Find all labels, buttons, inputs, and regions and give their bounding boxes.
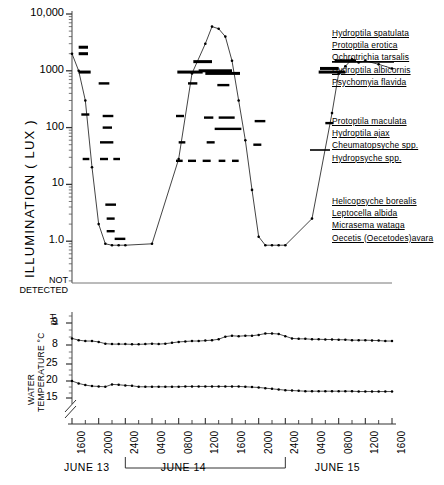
water-temperature-point xyxy=(197,385,200,388)
x-axis-label-0400: 0400 xyxy=(316,431,327,454)
day-label-1: JUNE 13 xyxy=(64,461,110,473)
x-axis-label-2000: 2000 xyxy=(103,431,114,454)
x-axis-label-0400: 0400 xyxy=(156,431,167,454)
ph-point xyxy=(311,338,314,341)
ph-point xyxy=(324,338,327,341)
x-axis-label-1600: 1600 xyxy=(396,431,407,454)
water-temperature-point xyxy=(344,390,347,393)
legend-item-0-1: Protoptila erotica xyxy=(332,40,398,50)
illumination-point xyxy=(311,217,314,220)
ph-point xyxy=(344,338,347,341)
water-temperature-point xyxy=(151,386,154,389)
water-temperature-point xyxy=(377,390,380,393)
legend-item-1-2: Cheumatopsyche spp. xyxy=(332,140,418,150)
ph-point xyxy=(224,335,227,338)
ph-point xyxy=(231,335,234,338)
ph-point xyxy=(264,332,267,335)
activity-bar-protoptila-maculata xyxy=(176,115,184,117)
illumination-point xyxy=(231,59,234,62)
legend-item-2-0: Helicopsyche borealis xyxy=(332,196,417,206)
water-temperature-point xyxy=(224,385,227,388)
water-temperature-point xyxy=(391,390,394,393)
x-axis-label-0800: 0800 xyxy=(343,431,354,454)
activity-bar-ochrotrichia-tarsalis xyxy=(188,82,197,84)
activity-bar-helicopsyche-borealis xyxy=(105,203,116,205)
illumination-point xyxy=(71,52,74,55)
activity-bar-protoptila-erotica xyxy=(205,72,240,75)
activity-bar-protoptila-maculata xyxy=(219,116,235,118)
ph-point xyxy=(164,342,167,345)
activity-bar-protoptila-maculata xyxy=(204,116,213,118)
ph-point xyxy=(244,335,247,338)
ph-point xyxy=(177,341,180,344)
illumination-point xyxy=(151,242,154,245)
water-temperature-point xyxy=(277,388,280,391)
x-axis-label-2000: 2000 xyxy=(263,431,274,454)
ph-point xyxy=(357,339,360,342)
ph-point xyxy=(211,339,214,342)
illumination-point xyxy=(117,244,120,247)
figure-canvas: ILLUMINATION ( LUX ) NOTDETECTED WATER T… xyxy=(0,0,444,485)
legend-item-2-1: Leptocella albida xyxy=(332,208,397,218)
activity-bar-hydropsyche-spp- xyxy=(188,160,196,162)
activity-bar-hydropsyche-spp- xyxy=(219,160,226,162)
illumination-tick-label-4: 1.0 xyxy=(0,233,64,245)
day-label-2: JUNE 14 xyxy=(161,461,207,473)
water-temperature-point xyxy=(157,386,160,389)
activity-bar-hydropsyche-spp- xyxy=(113,158,120,160)
x-axis-label-1200: 1200 xyxy=(369,431,380,454)
activity-bar-micrasema-wataga xyxy=(107,230,115,232)
x-axis-label-2400: 2400 xyxy=(129,431,140,454)
illumination-point xyxy=(111,244,114,247)
water-temperature-point xyxy=(191,385,194,388)
water-temperature-point xyxy=(137,386,140,389)
ph-point xyxy=(171,342,174,345)
water-temperature-point xyxy=(304,390,307,393)
illumination-point xyxy=(97,223,100,226)
water-temperature-point xyxy=(211,385,214,388)
axis-break-mark-2 xyxy=(65,406,76,418)
legend-item-0-0: Hydroptila spatulata xyxy=(332,28,409,38)
water-temperature-point xyxy=(257,386,260,389)
activity-bar-cheumatopsyche-spp- xyxy=(100,141,113,143)
illumination-point xyxy=(91,166,94,169)
ph-point xyxy=(217,338,220,341)
x-axis-label-1200: 1200 xyxy=(209,431,220,454)
illumination-point xyxy=(204,42,207,45)
ph-point xyxy=(304,338,307,341)
ph-point xyxy=(291,337,294,340)
ph-point xyxy=(71,337,74,340)
temperature-tick-label-1: 20 xyxy=(46,373,58,385)
illumination-point xyxy=(104,242,107,245)
legend-item-2-3: Oecetis (Oecetodes)avara xyxy=(332,233,433,243)
activity-bar-hydropsyche-spp- xyxy=(100,158,108,160)
ph-point xyxy=(351,339,354,342)
illumination-tick-label-0: 10,000 xyxy=(0,6,64,18)
water-temperature-point xyxy=(144,386,147,389)
ph-point xyxy=(317,338,320,341)
ph-point xyxy=(131,343,134,346)
ph-point xyxy=(97,341,100,344)
water-temperature-point xyxy=(384,390,387,393)
water-temperature-point xyxy=(264,387,267,390)
water-temperature-point xyxy=(84,384,87,387)
illumination-point xyxy=(217,27,220,30)
activity-bar-ochrotrichia-tarsalis xyxy=(217,84,229,86)
activity-bar-hydropsyche-spp- xyxy=(232,160,239,162)
ph-point xyxy=(284,335,287,338)
water-temperature-point xyxy=(271,388,274,391)
activity-bar-leptocella-albida xyxy=(107,217,115,219)
activity-bar-protoptila-maculata xyxy=(81,113,89,115)
illumination-point xyxy=(237,99,240,102)
water-temperature-point xyxy=(357,390,360,393)
legend-item-2-2: Micrasema wataga xyxy=(332,220,405,230)
water-temperature-point xyxy=(364,390,367,393)
ph-point xyxy=(204,339,207,342)
illumination-point xyxy=(271,244,274,247)
ph-point xyxy=(137,343,140,346)
water-temperature-point xyxy=(284,389,287,392)
water-temperature-point xyxy=(91,385,94,388)
water-temperature-point xyxy=(291,389,294,392)
ph-point xyxy=(277,333,280,336)
water-temperature-point xyxy=(164,386,167,389)
